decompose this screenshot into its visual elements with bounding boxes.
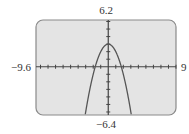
xmax-label: 9 <box>181 61 187 73</box>
xmin-label: −9.6 <box>11 61 31 73</box>
screen-frame <box>36 20 176 115</box>
graphing-calculator-window: 6.2 −6.4 −9.6 9 <box>0 0 189 134</box>
ymin-label: −6.4 <box>96 118 116 130</box>
ymax-label: 6.2 <box>99 4 113 16</box>
